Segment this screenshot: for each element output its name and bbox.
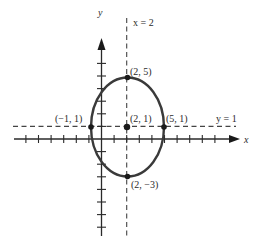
x-axis-arrow-icon — [229, 135, 240, 143]
x-axis — [14, 135, 240, 143]
label-top-vertex: (2, 5) — [130, 66, 152, 78]
label-right-vertex: (5, 1) — [166, 113, 188, 125]
ellipse-diagram: y x x = 2 y = 1 (−1, 1) (2, 1) (5, 1) (2… — [0, 0, 255, 242]
point-center — [124, 124, 130, 130]
point-right-vertex — [161, 124, 167, 130]
point-bottom-vertex — [125, 174, 131, 180]
x-axis-label: x — [243, 134, 249, 145]
y-axis-label: y — [97, 7, 103, 18]
label-left-vertex: (−1, 1) — [55, 113, 82, 125]
vertical-guide-label: x = 2 — [133, 17, 154, 28]
horizontal-guide-label: y = 1 — [216, 113, 237, 124]
label-bottom-vertex: (2, −3) — [131, 179, 158, 191]
label-center: (2, 1) — [130, 113, 152, 125]
y-axis — [97, 38, 106, 236]
point-left-vertex — [88, 124, 94, 130]
y-axis-arrow-icon — [98, 38, 106, 50]
